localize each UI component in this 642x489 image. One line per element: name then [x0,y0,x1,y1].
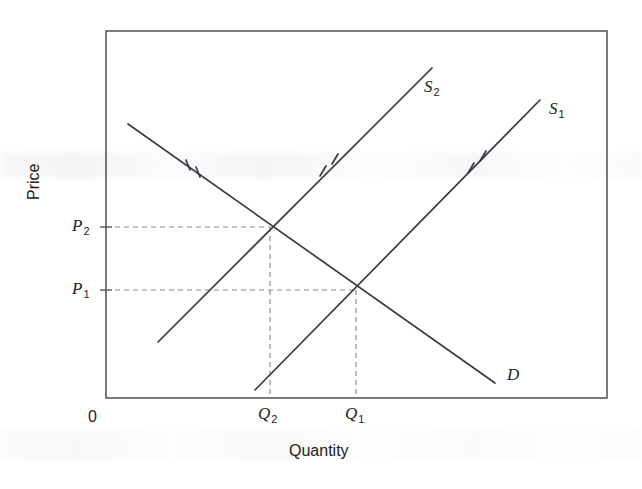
plot-frame [106,31,607,398]
supply-curve-s2-line [158,68,432,342]
tick-label-p2-base: P [72,216,82,235]
tick-label-q1-base: Q [345,404,357,423]
x-axis-label: Quantity [289,443,349,459]
curve-label-s1-sub: 1 [559,108,565,120]
tick-label-p2: P2 [72,217,89,234]
curve-label-d: D [507,366,519,383]
tick-label-p2-sub: 2 [83,225,89,237]
origin-label: 0 [88,409,97,425]
supply-curve-s1 [255,100,540,390]
supply-curve-s2 [158,68,432,342]
curve-label-d-base: D [507,365,519,384]
curve-label-s2-sub: 2 [434,86,440,98]
tick-label-q2-base: Q [258,404,270,423]
supply-curve-s1-line [255,100,540,390]
curve-label-s2-base: S [424,77,433,96]
tick-label-p1-sub: 1 [83,288,89,300]
demand-curve-line [128,124,495,383]
curve-label-s1-base: S [549,99,558,118]
tick-label-q1: Q1 [345,405,363,422]
tick-label-p1: P1 [72,280,89,297]
supply-demand-figure: Price Quantity 0 P2 P1 Q2 Q1 S2 S1 D [0,0,642,489]
curve-label-s1: S1 [549,100,564,117]
guide-lines [106,227,356,398]
frame-rect [106,31,607,398]
demand-curve [128,124,495,383]
tick-label-q1-sub: 1 [358,413,364,425]
curve-label-s2: S2 [424,78,439,95]
tick-label-q2-sub: 2 [271,413,277,425]
y-axis-label: Price [26,164,42,200]
supply-curve-s1-break-marks [468,151,486,173]
demand-curve-break-marks [186,160,200,177]
tick-label-q2: Q2 [258,405,276,422]
tick-label-p1-base: P [72,279,82,298]
